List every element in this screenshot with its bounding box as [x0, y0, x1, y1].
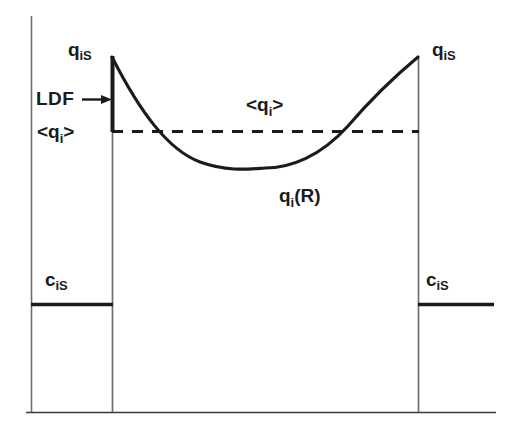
- label-q-surface-left-base: q: [68, 39, 80, 60]
- label-ldf-text: LDF: [36, 88, 74, 109]
- label-average-center-post: >: [272, 94, 283, 115]
- label-average-left-pre: <q: [37, 121, 60, 142]
- label-fluid-left: ciS: [45, 270, 67, 289]
- label-fluid-right: ciS: [426, 270, 448, 289]
- label-fluid-left-sub: iS: [56, 278, 68, 293]
- label-fluid-left-base: c: [45, 269, 56, 290]
- label-q-surface-right-base: q: [432, 39, 444, 60]
- label-average-center: <qi>: [246, 95, 283, 114]
- label-q-surface-right: qiS: [432, 40, 456, 59]
- figure-root: qiS qiS LDF <qi> <qi> qi(R) ciS ciS: [0, 0, 517, 440]
- label-average-left-post: >: [63, 121, 74, 142]
- label-profile: qi(R): [279, 186, 321, 205]
- label-fluid-right-base: c: [426, 269, 437, 290]
- label-fluid-right-sub: iS: [437, 278, 449, 293]
- label-average-center-pre: <q: [246, 94, 269, 115]
- label-q-surface-left-sub: iS: [80, 48, 92, 63]
- label-profile-post: (R): [294, 185, 320, 206]
- label-average-left-sub: i: [60, 131, 64, 146]
- label-average-center-sub: i: [269, 104, 273, 119]
- label-profile-base: q: [279, 185, 291, 206]
- concentration-profile-diagram: [0, 0, 517, 440]
- label-ldf: LDF: [36, 89, 74, 108]
- label-profile-sub: i: [291, 195, 295, 210]
- label-average-left: <qi>: [37, 122, 74, 141]
- ldf-arrow-icon: [82, 95, 112, 104]
- label-q-surface-left: qiS: [68, 40, 92, 59]
- label-q-surface-right-sub: iS: [444, 48, 456, 63]
